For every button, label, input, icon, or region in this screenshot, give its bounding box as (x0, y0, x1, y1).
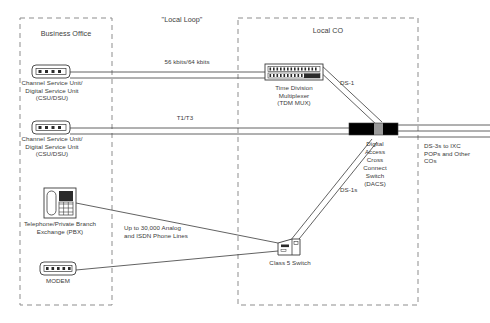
link-label-t1-t3: T1/T3 (160, 114, 210, 122)
link-label-ds3: DS-3s to IXC POPs and Other COs (424, 142, 488, 165)
diagram-canvas: Business Office "Local Loop" Local CO Ch… (0, 0, 490, 323)
class-5-switch-icon (278, 239, 300, 255)
link-label-ds1s: DS-1s (340, 186, 372, 194)
dacs-switch-icon (349, 123, 398, 135)
zone-label-local-loop: "Local Loop" (132, 16, 232, 24)
zone-label-business-office: Business Office (20, 30, 112, 38)
device-label-tdm-mux: Time Division Multiplexer (TDM MUX) (252, 84, 336, 107)
device-label-modem: MODEM (28, 277, 88, 285)
tdm-mux-icon (265, 64, 323, 80)
link-label-56-64: 56 kbits/64 kbits (132, 58, 242, 66)
device-label-pbx: Telephone/Private Branch Exchange (PBX) (8, 220, 112, 235)
diagram-vector-layer (0, 0, 490, 323)
modem-icon (40, 262, 76, 275)
csu-dsu-icon (32, 65, 70, 78)
zone-label-local-co: Local CO (238, 27, 418, 35)
device-label-class-5-switch: Class 5 Switch (252, 259, 328, 267)
link-line-ds3 (398, 125, 490, 137)
link-label-analog-isdn: Up to 30,000 Analog and ISDN Phone Lines (124, 224, 220, 239)
device-label-dacs: Digital Access Cross Connect Switch (DAC… (352, 140, 398, 188)
telephone-pbx-icon (44, 188, 76, 218)
csu-dsu-icon (32, 121, 70, 134)
device-label-csu-dsu-2: Channel Service Unit/ Digital Service Un… (6, 135, 98, 158)
link-label-ds1: DS-1 (340, 79, 370, 87)
link-line-56-64 (70, 72, 265, 78)
device-label-csu-dsu-1: Channel Service Unit/ Digital Service Un… (6, 79, 98, 102)
